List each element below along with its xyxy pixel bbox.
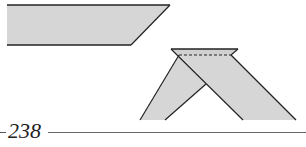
unfolded-strip (7, 5, 170, 45)
footer-rule (48, 132, 306, 133)
leading-dash (0, 132, 6, 133)
fold-diagram (0, 0, 306, 125)
folded-strip (140, 49, 296, 120)
page-footer: 238 (0, 118, 306, 147)
page-number: 238 (8, 120, 41, 142)
